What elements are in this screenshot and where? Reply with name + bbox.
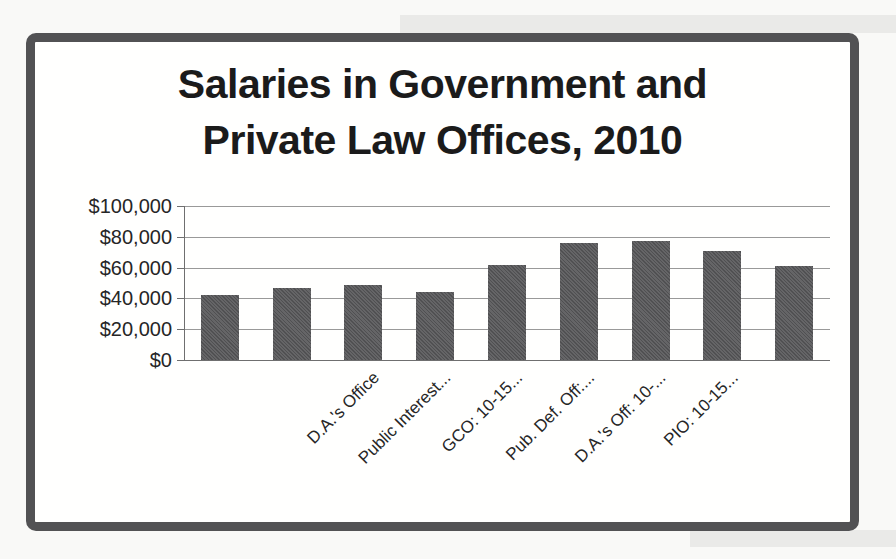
gridline <box>184 360 830 361</box>
y-tick-mark <box>177 329 184 330</box>
y-tick-mark <box>177 237 184 238</box>
y-tick-mark <box>177 268 184 269</box>
gridline <box>184 206 830 207</box>
scan-artifact-bottom-right <box>690 530 896 547</box>
gridline <box>184 237 830 238</box>
y-tick-label: $20,000 <box>40 317 172 341</box>
y-tick-label: $100,000 <box>40 194 172 218</box>
scanned-chart-page: Salaries in Government and Private Law O… <box>0 0 896 559</box>
chart-title: Salaries in Government and Private Law O… <box>26 56 859 168</box>
y-tick-mark <box>177 206 184 207</box>
y-tick-label: $40,000 <box>40 286 172 310</box>
bar <box>416 292 454 360</box>
bar <box>344 285 382 360</box>
y-tick-mark <box>177 298 184 299</box>
bar <box>775 266 813 360</box>
bar <box>703 251 741 360</box>
y-tick-mark <box>177 360 184 361</box>
chart-title-line-1: Salaries in Government and <box>26 56 859 112</box>
bar <box>201 295 239 360</box>
bar <box>488 265 526 360</box>
y-tick-label: $0 <box>40 348 172 372</box>
scan-artifact-top-right <box>400 15 896 33</box>
bar <box>560 243 598 360</box>
y-tick-label: $80,000 <box>40 225 172 249</box>
chart-title-line-2: Private Law Offices, 2010 <box>26 112 859 168</box>
bar <box>273 288 311 360</box>
y-axis-line <box>184 206 185 361</box>
y-tick-label: $60,000 <box>40 256 172 280</box>
bar <box>632 241 670 360</box>
